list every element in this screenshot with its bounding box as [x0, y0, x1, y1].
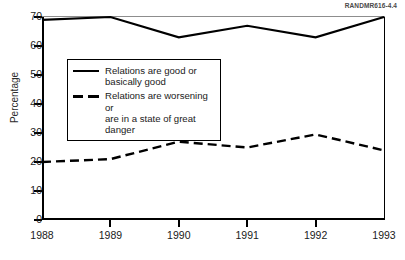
legend-item-worsening: Relations are worsening or are in a stat… — [73, 90, 214, 135]
legend-label-worsening: Relations are worsening or are in a stat… — [105, 90, 214, 135]
x-tick-label-1993: 1993 — [354, 229, 405, 241]
x-tick-label-1991: 1991 — [217, 229, 277, 241]
y-tick-label-0: 0 — [12, 213, 42, 225]
legend-label-good: Relations are good or basically good — [105, 65, 197, 87]
x-tick-1992 — [315, 220, 317, 227]
x-tick-label-1989: 1989 — [80, 229, 140, 241]
legend-swatch-dashed-icon — [73, 90, 99, 103]
chart-legend: Relations are good or basically good Rel… — [67, 59, 221, 141]
plot-right-border — [384, 17, 385, 220]
y-tick-label-10: 10 — [12, 184, 42, 196]
legend-label-good-line1: Relations are good or — [105, 65, 197, 76]
y-tick-label-30: 30 — [12, 126, 42, 138]
legend-label-good-line2: basically good — [105, 76, 197, 87]
chart-figure: RANDMR616-4.4 Percentage 010203040506070… — [0, 0, 405, 260]
legend-label-worsening-line2: are in a state of great danger — [105, 113, 214, 135]
legend-swatch-solid-icon — [73, 65, 99, 78]
y-tick-label-20: 20 — [12, 155, 42, 167]
y-tick-label-70: 70 — [12, 10, 42, 22]
y-tick-label-40: 40 — [12, 97, 42, 109]
x-tick-1991 — [246, 220, 248, 227]
legend-item-good: Relations are good or basically good — [73, 65, 214, 87]
document-id-label: RANDMR616-4.4 — [345, 2, 397, 9]
x-tick-1990 — [178, 220, 180, 227]
y-tick-label-60: 60 — [12, 39, 42, 51]
legend-label-worsening-line1: Relations are worsening or — [105, 90, 208, 112]
y-tick-label-50: 50 — [12, 68, 42, 80]
x-tick-label-1988: 1988 — [12, 229, 72, 241]
x-tick-label-1992: 1992 — [286, 229, 346, 241]
x-tick-label-1990: 1990 — [149, 229, 209, 241]
x-tick-1989 — [109, 220, 111, 227]
